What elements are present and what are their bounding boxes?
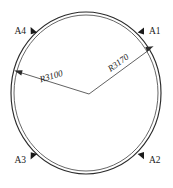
node-label-a1: A1 xyxy=(149,26,161,36)
node-label-a2: A2 xyxy=(149,155,161,165)
node-marker-a2 xyxy=(138,152,144,159)
dimension-lines-group xyxy=(14,46,153,94)
circle-radius-diagram: A4 A1 A3 A2 R3100 R3170 xyxy=(0,0,173,188)
dimension-labels-group: R3100 R3170 xyxy=(37,51,131,84)
dimension-label-r3170: R3170 xyxy=(105,51,131,74)
node-labels-group: A4 A1 A3 A2 xyxy=(14,26,160,165)
node-label-a3: A3 xyxy=(14,155,26,165)
node-label-a4: A4 xyxy=(14,26,26,36)
technical-drawing-canvas: A4 A1 A3 A2 R3100 R3170 xyxy=(0,0,173,188)
node-marker-a1 xyxy=(138,27,144,34)
